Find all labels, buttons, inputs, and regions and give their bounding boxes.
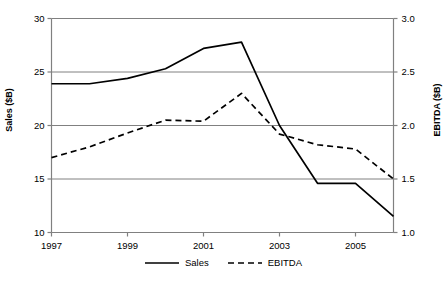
x-axis-tick-label: 1999 (108, 240, 148, 251)
legend-item-sales: Sales (144, 258, 209, 268)
x-axis-tick-label: 2005 (336, 240, 376, 251)
y-axis-left-tick-label: 15 (21, 173, 45, 184)
series-line-sales (52, 42, 394, 216)
series-line-ebitda (52, 93, 394, 179)
legend-dashed-line-icon (227, 258, 263, 268)
y-axis-left-tick-label: 10 (21, 227, 45, 238)
x-axis-tick-label: 1997 (32, 240, 72, 251)
y-axis-left-tick-label: 25 (21, 66, 45, 77)
y-axis-left-tick-label: 30 (21, 13, 45, 24)
legend-solid-line-icon (144, 258, 180, 268)
y-axis-right-tick-label: 2.5 (402, 66, 428, 77)
y-axis-right-tick-label: 3.0 (402, 13, 428, 24)
legend-label-ebitda: EBITDA (268, 258, 302, 268)
y-axis-left-tick-label: 20 (21, 120, 45, 131)
x-axis-tick-label: 2003 (260, 240, 300, 251)
y-axis-right-tick-label: 1.5 (402, 173, 428, 184)
chart-legend: Sales EBITDA (0, 258, 446, 268)
legend-item-ebitda: EBITDA (227, 258, 302, 268)
x-axis-tick-label: 2001 (184, 240, 224, 251)
legend-label-sales: Sales (185, 258, 209, 268)
chart-container: Sales ($B) EBITDA ($B) 1015202530 1.01.5… (0, 0, 446, 287)
y-axis-right-tick-label: 1.0 (402, 227, 428, 238)
y-axis-right-tick-label: 2.0 (402, 120, 428, 131)
